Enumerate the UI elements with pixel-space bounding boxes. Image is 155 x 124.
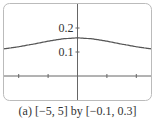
chart-caption: (a) [−5, 5] by [−0.1, 0.3] xyxy=(0,104,155,119)
y-tick-label: 0.1 xyxy=(59,45,74,59)
graph-window: 0.10.2 xyxy=(0,0,155,104)
y-tick-label: 0.2 xyxy=(59,21,74,35)
